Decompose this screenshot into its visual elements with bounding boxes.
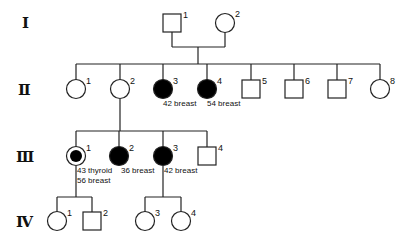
id-label: 2	[235, 9, 240, 19]
generation-label-ii: Ⅱ	[18, 81, 31, 99]
diagnosis-note: 42 breast	[164, 166, 198, 175]
id-label: 4	[218, 143, 223, 153]
id-label: 5	[262, 76, 267, 86]
individual-ii-8-female	[371, 80, 390, 99]
id-label: 3	[173, 143, 178, 153]
individual-ii-6-male	[285, 80, 303, 98]
individual-iii-2-affected-female	[110, 147, 129, 166]
id-label: 7	[348, 76, 353, 86]
gen-iii-lines	[76, 131, 207, 197]
individual-ii-7-male	[328, 80, 346, 98]
gen-iv-lines	[57, 197, 181, 212]
individual-iv-4-female	[172, 212, 191, 231]
individual-iv-1-female	[48, 212, 67, 231]
individual-i-1-male	[163, 14, 181, 32]
id-label: 4	[217, 76, 222, 86]
individual-ii-3-affected-female	[154, 80, 173, 99]
id-label: 2	[129, 143, 134, 153]
generation-label-iv: Ⅳ	[16, 213, 34, 231]
diagnosis-note-breast: 56 breast	[77, 176, 111, 185]
id-label: 4	[191, 208, 196, 218]
id-label: 1	[86, 143, 91, 153]
individual-iv-2-male	[83, 212, 101, 230]
individual-ii-2-female	[111, 80, 130, 99]
diagnosis-note: 42 breast	[163, 99, 197, 108]
id-label: 1	[86, 76, 91, 86]
diagnosis-note: 54 breast	[207, 99, 241, 108]
id-label: 3	[155, 208, 160, 218]
id-label: 2	[130, 76, 135, 86]
individual-ii-4-affected-female	[198, 80, 217, 99]
individual-iv-3-female	[136, 212, 155, 231]
individual-iii-1-affected-female	[70, 150, 82, 162]
id-label: 1	[183, 10, 188, 20]
id-label: 8	[390, 76, 395, 86]
diagnosis-note: 36 breast	[121, 166, 155, 175]
id-label: 3	[173, 76, 178, 86]
generation-label-i: I	[22, 14, 29, 32]
id-label: 1	[67, 208, 72, 218]
individual-iii-4-male	[198, 147, 216, 165]
individual-ii-5-male	[242, 80, 260, 98]
individual-iii-3-affected-female	[154, 147, 173, 166]
pedigree-chart: I Ⅱ Ⅲ Ⅳ 1 2 1 2 3 42 breast 4 54 breast …	[0, 0, 415, 246]
individual-i-2-female	[216, 14, 235, 33]
id-label: 2	[103, 208, 108, 218]
gen-i-lines	[172, 32, 225, 64]
diagnosis-note-thyroid: 43 thyroid	[77, 166, 112, 175]
generation-label-iii: Ⅲ	[16, 148, 34, 166]
id-label: 6	[305, 76, 310, 86]
individual-ii-1-female	[67, 80, 86, 99]
